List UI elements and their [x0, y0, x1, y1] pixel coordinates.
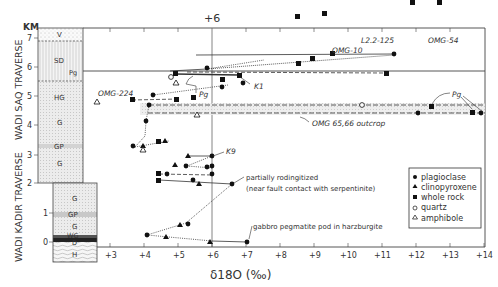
svg-text:5: 5: [27, 92, 32, 101]
svg-text:+8: +8: [275, 251, 287, 260]
svg-text:7: 7: [27, 34, 32, 43]
svg-text:OMG-54: OMG-54: [428, 36, 459, 45]
top-reference-label: +6: [204, 12, 220, 25]
legend-quartz: quartz: [421, 203, 447, 212]
svg-text:+10: +10: [340, 251, 357, 260]
svg-text:0: 0: [43, 238, 48, 247]
svg-text:K1: K1: [254, 82, 264, 91]
svg-text:gabbro pegmatite pod in harzbu: gabbro pegmatite pod in harzburgite: [253, 223, 382, 231]
figure: WADI SAQ TRAVERSE WADI KADIR TRAVERSE KM…: [0, 0, 498, 287]
svg-text:+6: +6: [207, 251, 219, 260]
svg-text:Pg: Pg: [69, 69, 77, 77]
svg-text:partially rodingitized: partially rodingitized: [246, 174, 318, 182]
svg-text:(near fault contact with serpe: (near fault contact with serpentinite): [246, 185, 376, 193]
svg-text:G: G: [57, 119, 62, 127]
svg-text:1: 1: [43, 209, 48, 218]
svg-text:HG: HG: [54, 94, 65, 102]
svg-text:OMG 65,66 outcrop: OMG 65,66 outcrop: [312, 119, 386, 128]
svg-text:4: 4: [27, 121, 32, 130]
svg-text:G: G: [72, 223, 77, 231]
y-axis-label: KM: [23, 22, 39, 32]
svg-text:SD: SD: [54, 57, 64, 65]
top-ticks: [110, 28, 450, 32]
svg-text:+14: +14: [476, 251, 493, 260]
series-quartz: [169, 75, 365, 108]
wadi-kadir-traverse-label: WADI KADIR TRAVERSE: [13, 152, 24, 262]
svg-text:H: H: [72, 251, 77, 259]
svg-text:OMG-224: OMG-224: [98, 89, 133, 98]
svg-text:+4: +4: [139, 251, 151, 260]
notes: partially rodingitized (near fault conta…: [246, 174, 382, 231]
svg-text:Pg: Pg: [199, 90, 209, 99]
svg-text:L2.2-125: L2.2-125: [361, 36, 394, 45]
svg-text:V: V: [57, 31, 62, 39]
lithology-column-upper: V SD Pg HG G GP G: [38, 28, 83, 183]
legend-whole-rock: whole rock: [421, 193, 465, 202]
svg-text:D: D: [72, 239, 77, 247]
legend-plagioclase: plagioclase: [421, 173, 466, 182]
svg-text:+3: +3: [105, 251, 117, 260]
svg-text:+11: +11: [374, 251, 391, 260]
svg-text:2: 2: [27, 179, 32, 188]
svg-text:+12: +12: [408, 251, 425, 260]
svg-text:Pg: Pg: [452, 90, 462, 99]
svg-text:+5: +5: [173, 251, 185, 260]
lithology-column-lower: G GP G WG D H: [53, 183, 97, 262]
x-axis-tick-labels: +3 +4 +5 +6 +7 +8 +9 +10 +11 +12 +13 +14: [105, 251, 493, 260]
wadi-saq-traverse-label: WADI SAQ TRAVERSE: [13, 39, 24, 140]
series-clinopyroxene: [140, 138, 213, 244]
svg-text:G: G: [72, 195, 77, 203]
svg-text:K9: K9: [226, 147, 236, 156]
svg-text:+9: +9: [309, 251, 321, 260]
legend-amphibole: amphibole: [421, 214, 463, 223]
svg-text:+7: +7: [241, 251, 253, 260]
legend: plagioclase clinopyroxene whole rock qua…: [409, 168, 481, 228]
svg-text:6: 6: [27, 63, 32, 72]
svg-text:G: G: [57, 160, 62, 168]
svg-text:+13: +13: [442, 251, 459, 260]
svg-text:GP: GP: [54, 143, 64, 151]
svg-text:3: 3: [27, 151, 32, 160]
svg-text:GP: GP: [68, 211, 78, 219]
x-axis-ticks: [110, 243, 484, 247]
x-axis-label: δ18O (‰): [210, 268, 271, 282]
svg-text:OMG-10: OMG-10: [332, 46, 363, 55]
legend-clinopyroxene: clinopyroxene: [421, 183, 477, 192]
